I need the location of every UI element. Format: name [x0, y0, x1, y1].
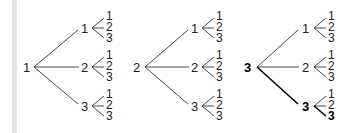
svg-text:3: 3	[216, 70, 223, 84]
highlighted-branch	[257, 67, 298, 104]
tree-1-child-3: 3 1 2 3	[81, 87, 113, 123]
tree-1: 1 1 1 2 3 2 1 2 3 3 1 2 3	[23, 9, 113, 123]
tree-3: 3 1 1 2 3 2 1 2 3 3 1 2 3	[244, 9, 335, 123]
svg-text:1: 1	[302, 21, 309, 36]
svg-text:3: 3	[106, 109, 113, 123]
tree-3-root: 3	[244, 60, 251, 75]
svg-text:2: 2	[81, 60, 88, 75]
svg-text:3: 3	[328, 109, 335, 123]
svg-text:3: 3	[302, 99, 309, 114]
svg-text:2: 2	[191, 60, 198, 75]
tree-1-branch-3	[34, 67, 78, 104]
svg-text:3: 3	[106, 70, 113, 84]
tree-2-child-3: 3 1 2 3	[191, 87, 223, 123]
tree-1-child-1: 1 1 2 3	[81, 9, 113, 45]
svg-text:3: 3	[191, 99, 198, 114]
svg-text:1: 1	[191, 21, 198, 36]
svg-text:3: 3	[216, 109, 223, 123]
svg-text:3: 3	[328, 70, 335, 84]
svg-text:3: 3	[81, 99, 88, 114]
tree-3-child-1: 1 1 2 3	[302, 9, 335, 45]
svg-text:3: 3	[106, 31, 113, 45]
tree-1-branch-1	[34, 30, 78, 67]
svg-text:3: 3	[216, 31, 223, 45]
tree-1-child-2: 2 1 2 3	[81, 48, 113, 84]
tree-2-root: 2	[133, 60, 140, 75]
svg-text:1: 1	[81, 21, 88, 36]
tree-2: 2 1 1 2 3 2 1 2 3 3 1 2 3	[133, 9, 223, 123]
tree-2-child-1: 1 1 2 3	[191, 9, 223, 45]
tree-3-child-3: 3 1 2 3	[302, 87, 335, 123]
tree-diagram: 1 1 1 2 3 2 1 2 3 3 1 2 3 2	[0, 0, 360, 133]
tree-1-root: 1	[23, 60, 30, 75]
tree-2-child-2: 2 1 2 3	[191, 48, 223, 84]
tree-3-child-2: 2 1 2 3	[302, 48, 335, 84]
svg-text:3: 3	[328, 31, 335, 45]
svg-text:2: 2	[302, 60, 309, 75]
